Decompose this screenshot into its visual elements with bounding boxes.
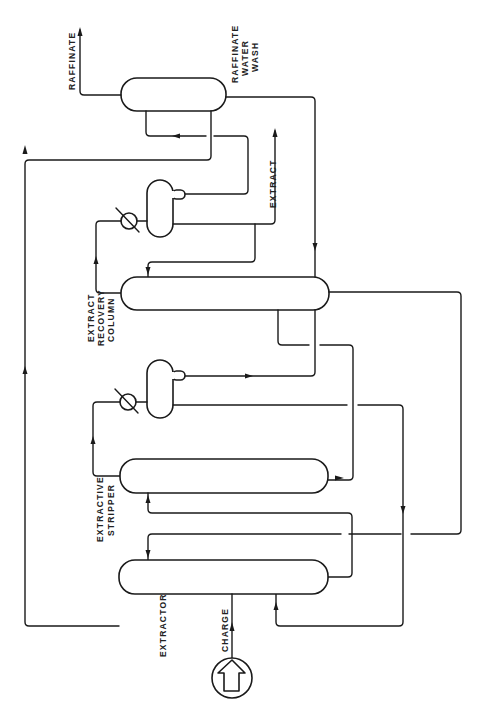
stripper-condenser — [115, 389, 138, 413]
process-flow-diagram: RAFFINATE RAFFINATE WATER WASH EXTRACT E… — [0, 0, 483, 713]
extractive-stripper — [120, 459, 328, 493]
stripper-vapor-arrow-icon — [245, 374, 253, 379]
extract-recovery-column-label-3: COLUMN — [106, 298, 116, 343]
extractor-to-stripper-arrow-icon — [146, 495, 151, 503]
wash-water-return-line — [146, 111, 206, 136]
extract-recovery-column — [121, 277, 329, 310]
extract-recovery-column-label-2: RECOVERY — [96, 289, 106, 346]
raffinate-arrow-icon — [78, 27, 83, 36]
wash-to-extractor-loop-line — [25, 111, 211, 626]
wash-return-arrow-icon — [172, 134, 180, 139]
raffinate-water-wash-label-2: WATER — [240, 40, 250, 76]
wash-water-arrow-icon — [313, 243, 318, 251]
extract-recovery-column-label-1: EXTRACT — [86, 293, 96, 342]
stripper-accumulator — [147, 360, 185, 418]
recovery-accumulator — [147, 180, 185, 237]
stripper-bottoms-down-arrow-icon — [401, 506, 406, 514]
extractive-stripper-label-1: EXTRACTIVE — [95, 476, 105, 542]
raffinate-water-wash — [121, 78, 226, 111]
raffinate-label: RAFFINATE — [67, 32, 77, 90]
stripper-vapor-to-recovery-line — [185, 310, 315, 376]
recovery-bottoms-line — [329, 292, 461, 534]
recovery-condenser — [116, 208, 139, 232]
raffinate-water-wash-label-3: WASH — [250, 42, 260, 72]
recovery-side-draw-line — [278, 310, 309, 345]
raffinate-outlet-line — [80, 30, 121, 95]
charge-label: CHARGE — [220, 608, 230, 652]
extractor-bottom-return-arrow-icon — [274, 602, 279, 610]
recovery-bottoms-arrow-icon — [146, 550, 151, 558]
extract-arrow-icon — [273, 128, 278, 137]
left-vertical-arrow-icon — [23, 366, 28, 374]
charge-feed-symbol — [212, 658, 252, 698]
stripper-overhead-line — [93, 402, 120, 476]
recovery-overhead-line — [96, 221, 121, 293]
extractor — [119, 560, 328, 594]
stripper-overhead-arrow-icon — [91, 436, 96, 444]
extractor-label: EXTRACTOR — [158, 593, 168, 657]
recovery-overhead-arrow-icon — [94, 256, 99, 264]
recovery-reflux-arrow-icon — [146, 267, 151, 275]
charge-arrow-icon — [230, 622, 235, 631]
extract-label: EXTRACT — [268, 159, 278, 208]
raffinate-water-wash-label-1: RAFFINATE — [230, 25, 240, 83]
extract-outlet-line — [173, 131, 275, 224]
extractive-stripper-label-2: STRIPPER — [106, 484, 116, 536]
